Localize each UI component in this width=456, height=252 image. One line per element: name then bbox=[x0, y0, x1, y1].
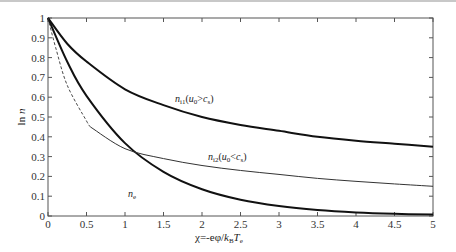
y-tick-label: 0.3 bbox=[31, 151, 45, 163]
y-tick-label: 0.9 bbox=[31, 32, 45, 44]
label-ni2: ni2(u0<cs) bbox=[208, 151, 246, 164]
plot-frame bbox=[48, 18, 433, 216]
y-tick-label: 0.5 bbox=[31, 111, 45, 123]
x-tick-label: 1 bbox=[122, 218, 128, 230]
y-tick-label: 0 bbox=[40, 210, 46, 222]
curve-ne bbox=[48, 18, 433, 215]
chart: 00.511.522.533.544.55 00.10.20.30.40.50.… bbox=[0, 0, 456, 252]
y-tick-label: 0.7 bbox=[31, 71, 45, 83]
y-axis-ticks: 00.10.20.30.40.50.60.70.80.91 bbox=[31, 12, 433, 222]
y-axis-label: ln n bbox=[15, 108, 27, 125]
y-tick-label: 0.6 bbox=[31, 91, 45, 103]
x-tick-label: 1.5 bbox=[157, 218, 171, 230]
curves bbox=[48, 18, 433, 215]
x-tick-label: 0.5 bbox=[80, 218, 94, 230]
x-tick-label: 2 bbox=[199, 218, 205, 230]
x-axis-label: χ=-eφ/kBTe bbox=[194, 231, 243, 245]
y-tick-label: 0.8 bbox=[31, 52, 45, 64]
x-tick-label: 5 bbox=[430, 218, 436, 230]
x-tick-label: 4 bbox=[353, 218, 359, 230]
y-tick-label: 0.1 bbox=[31, 190, 45, 202]
label-ni1: ni1(u0>cs) bbox=[175, 93, 213, 106]
y-tick-label: 0.4 bbox=[31, 131, 45, 143]
x-tick-label: 3.5 bbox=[311, 218, 325, 230]
y-tick-label: 1 bbox=[40, 12, 46, 24]
y-tick-label: 0.2 bbox=[31, 170, 45, 182]
x-tick-label: 4.5 bbox=[388, 218, 402, 230]
axes-frame bbox=[48, 18, 433, 216]
x-tick-label: 0 bbox=[45, 218, 51, 230]
label-ne: ne bbox=[128, 188, 136, 201]
curve-ni1 bbox=[48, 18, 433, 147]
x-tick-label: 2.5 bbox=[234, 218, 248, 230]
x-tick-label: 3 bbox=[276, 218, 282, 230]
